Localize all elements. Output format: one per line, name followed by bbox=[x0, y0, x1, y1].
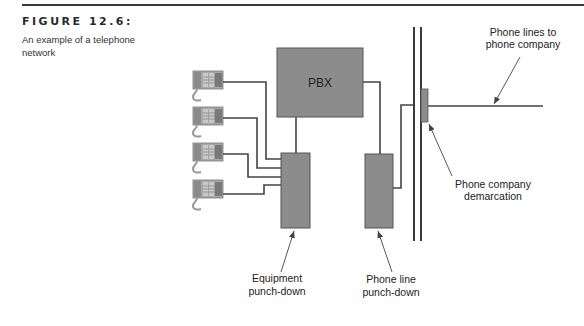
phoneline-label-line1: Phone line bbox=[366, 273, 416, 285]
pbx-label: PBX bbox=[308, 76, 332, 90]
demarcation-block bbox=[421, 89, 428, 122]
equipment-label-line1: Equipment bbox=[252, 272, 302, 284]
telephone-icon-1 bbox=[193, 71, 223, 101]
phoneline-label-line2: punch-down bbox=[362, 286, 419, 298]
telephone-icon-2 bbox=[193, 107, 223, 137]
equipment-punch-down-block bbox=[281, 153, 310, 228]
telephone-icon-4 bbox=[193, 180, 223, 210]
equipment-label-line2: punch-down bbox=[248, 285, 305, 297]
lines-label-line1: Phone lines to bbox=[490, 26, 557, 38]
telephone-icon-3 bbox=[193, 143, 223, 173]
building-wall bbox=[414, 27, 421, 241]
lines-label-line2: phone company bbox=[486, 38, 561, 50]
telephone-network-diagram: PBX Equipment punch-down Phone line punc… bbox=[0, 0, 584, 326]
phone-line-punch-down-block bbox=[365, 154, 393, 228]
demarc-label-line2: demarcation bbox=[464, 190, 522, 202]
pbx-box: PBX bbox=[277, 48, 363, 117]
demarc-label-line1: Phone company bbox=[455, 178, 532, 190]
